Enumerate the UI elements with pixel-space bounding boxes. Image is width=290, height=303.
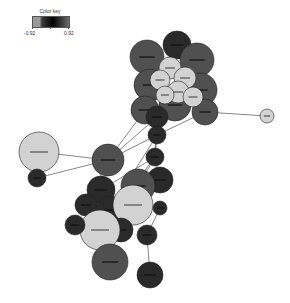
node-label (144, 274, 156, 275)
node-label (153, 134, 161, 135)
node-label (102, 261, 118, 262)
node-label (154, 179, 166, 180)
graph-nodes (19, 31, 274, 288)
node-label (168, 104, 182, 105)
node-label (264, 115, 270, 116)
node-label (101, 159, 115, 160)
node-label (173, 91, 183, 92)
node-label (151, 156, 159, 157)
node-label (165, 67, 175, 68)
node-label (199, 111, 211, 112)
node-label (161, 94, 169, 95)
node-label (180, 77, 190, 78)
node-label (95, 189, 108, 190)
node-label (143, 234, 152, 235)
node-label (81, 204, 91, 205)
node-label (189, 96, 198, 97)
node-label (157, 207, 163, 208)
node-label (139, 56, 154, 57)
node-label (152, 116, 162, 117)
node-label (30, 151, 48, 152)
node-label (71, 224, 80, 225)
network-graph (0, 0, 290, 303)
node-label (189, 59, 204, 60)
node-label (33, 177, 41, 178)
node-label (124, 204, 142, 205)
node-label (156, 79, 165, 80)
node-label (91, 229, 109, 230)
node-label (171, 44, 184, 45)
